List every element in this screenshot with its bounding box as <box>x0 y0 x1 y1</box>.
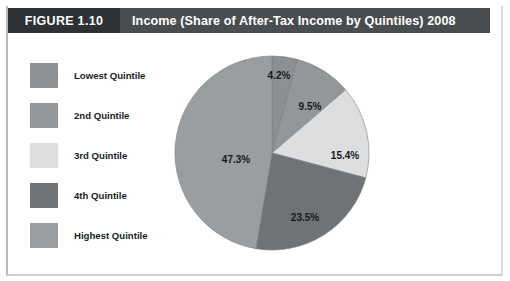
figure-container: FIGURE 1.10 Income (Share of After-Tax I… <box>0 0 510 281</box>
pie-slice-value-label: 23.5% <box>291 212 319 223</box>
pie-slice-value-label: 9.5% <box>299 101 322 112</box>
pie-slice <box>175 56 272 249</box>
legend-item: Lowest Quintile <box>30 55 180 95</box>
pie-slice-value-label: 4.2% <box>268 70 291 81</box>
legend-item-label: 4th Quintile <box>74 190 127 201</box>
pie-slice-value-label: 15.4% <box>331 150 359 161</box>
chart-legend: Lowest Quintile2nd Quintile3rd Quintile4… <box>30 55 180 255</box>
legend-item-label: 2nd Quintile <box>74 110 129 121</box>
figure-number-label: FIGURE 1.10 <box>25 14 103 28</box>
legend-item-label: Lowest Quintile <box>74 70 145 81</box>
legend-item-label: Highest Quintile <box>74 230 148 241</box>
pie-slice-value-label: 47.3% <box>222 154 250 165</box>
pie-chart: 4.2%9.5%15.4%23.5%47.3% <box>174 55 370 251</box>
legend-swatch <box>30 143 58 168</box>
legend-item: 3rd Quintile <box>30 135 180 175</box>
figure-title: Income (Share of After-Tax Income by Qui… <box>132 8 456 33</box>
legend-swatch <box>30 63 58 88</box>
legend-item: Highest Quintile <box>30 215 180 255</box>
legend-swatch <box>30 183 58 208</box>
legend-item-label: 3rd Quintile <box>74 150 127 161</box>
legend-swatch <box>30 103 58 128</box>
legend-swatch <box>30 223 58 248</box>
figure-number-badge: FIGURE 1.10 <box>8 8 120 33</box>
legend-item: 4th Quintile <box>30 175 180 215</box>
legend-item: 2nd Quintile <box>30 95 180 135</box>
